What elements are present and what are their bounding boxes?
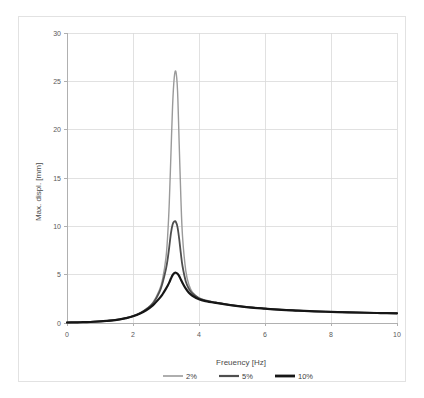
y-tick-label: 25	[53, 78, 61, 85]
x-axis-title: Freuency [Hz]	[216, 358, 266, 367]
grid-layer	[67, 33, 397, 323]
y-tick-label: 10	[53, 223, 61, 230]
x-tick-label: 6	[263, 331, 267, 338]
legend-label-5pct[interactable]: 5%	[242, 372, 253, 381]
series-line-10pct	[67, 273, 397, 323]
y-tick-label: 30	[53, 30, 61, 37]
y-tick-label: 20	[53, 126, 61, 133]
legend-label-10pct[interactable]: 10%	[298, 372, 313, 381]
x-tick-label: 0	[65, 331, 69, 338]
legend-label-2pct[interactable]: 2%	[186, 372, 197, 381]
x-tick-label: 4	[197, 331, 201, 338]
x-tick-label: 8	[329, 331, 333, 338]
chart-legend: 2%5%10%	[163, 372, 313, 381]
y-tick-label: 5	[57, 271, 61, 278]
y-tick-label: 15	[53, 175, 61, 182]
x-tick-label: 10	[393, 331, 401, 338]
y-axis-title: Max. displ. [mm]	[34, 163, 43, 221]
y-tick-label: 0	[57, 320, 61, 327]
series-layer	[67, 71, 397, 323]
frequency-response-chart: 0510152025300246810 Freuency [Hz] Max. d…	[19, 17, 407, 383]
chart-card: 0510152025300246810 Freuency [Hz] Max. d…	[18, 16, 406, 382]
series-line-2pct	[67, 71, 397, 323]
tick-label-layer: 0510152025300246810	[53, 30, 401, 338]
x-tick-label: 2	[131, 331, 135, 338]
axis-layer	[64, 33, 397, 326]
series-line-5pct	[67, 221, 397, 322]
